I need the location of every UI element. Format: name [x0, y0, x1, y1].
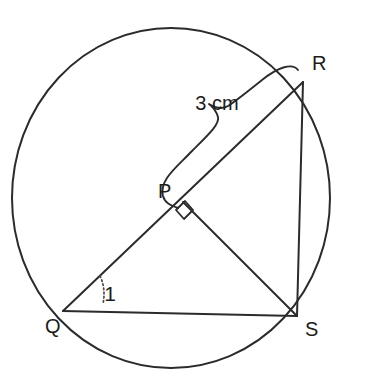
measure-brace-PR — [162, 66, 298, 208]
measure-label-3cm: 3 cm — [195, 92, 238, 114]
vertex-label-Q: Q — [45, 315, 61, 337]
segment-QS — [63, 311, 297, 316]
segment-RS — [297, 82, 303, 316]
vertex-label-R: R — [312, 52, 326, 74]
angle-label-1: 1 — [104, 282, 116, 305]
geometry-canvas: Q R S P 3 cm 1 — [0, 0, 365, 388]
segment-PS — [183, 202, 297, 316]
segment-QR — [63, 82, 303, 311]
geometry-figure: Q R S P 3 cm 1 — [0, 0, 365, 388]
vertex-label-S: S — [305, 318, 318, 340]
vertex-label-P: P — [158, 180, 171, 202]
